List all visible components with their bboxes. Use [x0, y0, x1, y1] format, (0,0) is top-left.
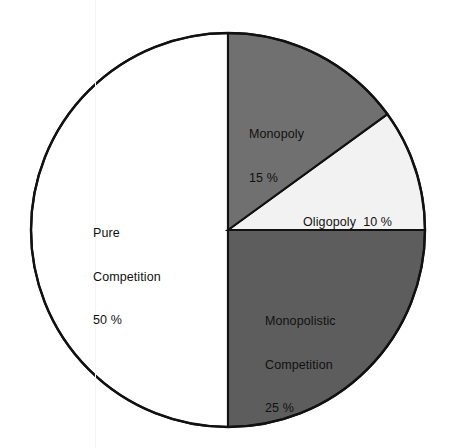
- pie-label-pure-competition: Pure Competition 50 %: [93, 197, 161, 357]
- pie-label-monopolistic-competition: Monopolistic Competition 25 %: [265, 285, 336, 445]
- pie-label-monopolistic-competition-value: 25 %: [265, 401, 336, 416]
- pie-label-monopoly-value: 15 %: [249, 171, 304, 186]
- pie-label-monopolistic-competition-name-line2: Competition: [265, 358, 336, 373]
- pie-label-pure-competition-name-line2: Competition: [93, 270, 161, 285]
- pie-label-pure-competition-name-line1: Pure: [93, 226, 161, 241]
- pie-label-monopoly: Monopoly 15 %: [249, 98, 304, 214]
- pie-label-pure-competition-value: 50 %: [93, 313, 161, 328]
- pie-label-oligopoly-name-value: Oligopoly 10 %: [303, 215, 392, 230]
- pie-label-oligopoly: Oligopoly 10 %: [303, 186, 392, 259]
- pie-label-monopolistic-competition-name-line1: Monopolistic: [265, 314, 336, 329]
- pie-label-monopoly-name: Monopoly: [249, 127, 304, 142]
- pie-chart-figure: Monopoly 15 % Oligopoly 10 % Pure Compet…: [0, 0, 453, 448]
